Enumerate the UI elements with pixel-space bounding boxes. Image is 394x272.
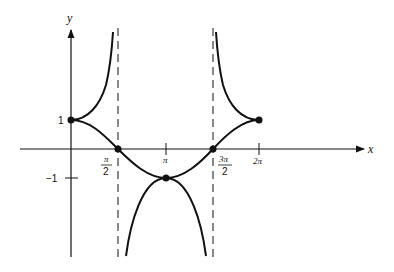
cos-sec-plot: y x 1 −1 π 2 π 3π 2 2π <box>0 0 394 272</box>
sec-branch-left <box>71 32 113 120</box>
point-3pi2-0 <box>210 146 217 153</box>
point-2pi-1 <box>256 117 263 124</box>
label-3pi-over-2: 3π 2 <box>218 154 232 177</box>
label-pi: π <box>163 155 168 165</box>
svg-text:2: 2 <box>222 166 228 177</box>
label-one: 1 <box>58 115 64 126</box>
label-pi-over-2: π 2 <box>101 154 112 177</box>
point-pi2-0 <box>115 146 122 153</box>
label-neg-one: −1 <box>46 173 58 184</box>
svg-text:3π: 3π <box>218 154 229 164</box>
point-pi-neg1 <box>163 175 170 182</box>
point-0-1 <box>68 117 75 124</box>
x-axis-label: x <box>367 142 374 156</box>
sec-branch-right <box>216 32 259 120</box>
sec-branch-lower <box>126 178 206 256</box>
label-2pi: 2π <box>253 156 263 166</box>
svg-text:π: π <box>104 154 109 164</box>
svg-text:2: 2 <box>103 166 109 177</box>
y-axis-label: y <box>66 11 73 25</box>
